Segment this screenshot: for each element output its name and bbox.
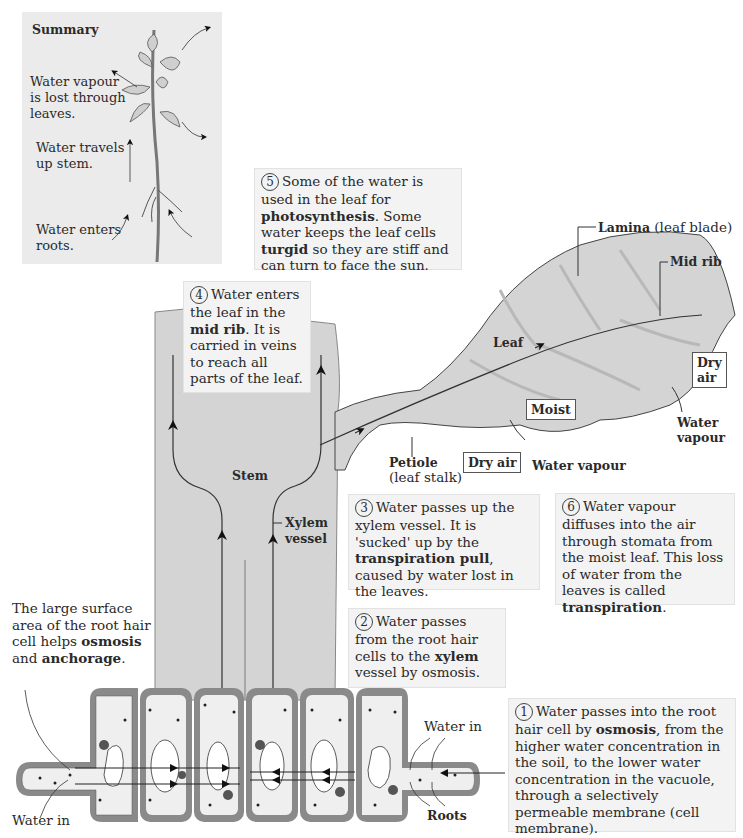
- moist-tag: Moist: [526, 399, 576, 420]
- root-cells: [16, 688, 505, 822]
- dry-air-bottom-tag: Dry air: [463, 452, 521, 473]
- stem-label: Stem: [232, 468, 268, 484]
- step-2-box: 2Water passes from the root hair cells t…: [348, 608, 506, 688]
- water-vapour-bottom-label: Water vapour: [532, 458, 626, 474]
- water-in-right-label: Water in: [424, 718, 482, 734]
- lamina-label: Lamina (leaf blade): [598, 219, 732, 236]
- step-1-box: 1Water passes into the root hair cell by…: [508, 698, 736, 832]
- step-number-badge: 2: [355, 613, 373, 631]
- mid-rib-label: Mid rib: [670, 254, 722, 270]
- water-in-left-label: Water in: [12, 812, 70, 828]
- step-6-box: 6Water vapour diffuses into the air thro…: [555, 493, 735, 605]
- step-number-badge: 5: [261, 173, 279, 191]
- roots-label: Roots: [427, 808, 467, 824]
- dry-air-right-tag: Dryair: [692, 352, 727, 388]
- root-hair-note: The large surface area of the root hair …: [12, 600, 162, 666]
- petiole-label: Petiole(leaf stalk): [389, 455, 462, 485]
- water-vapour-right-label: Watervapour: [677, 415, 725, 445]
- step-number-badge: 4: [190, 286, 208, 304]
- step-3-box: 3Water passes up the xylem vessel. It is…: [348, 494, 540, 590]
- step-number-badge: 3: [355, 499, 373, 517]
- step-number-badge: 6: [562, 498, 580, 516]
- summary-panel: Summary Water vapouris lost throughleave…: [22, 12, 222, 264]
- step-4-box: 4Water enters the leaf in the mid rib. I…: [183, 281, 311, 393]
- step-number-badge: 1: [515, 703, 533, 721]
- step-5-box: 5Some of the water is used in the leaf f…: [254, 168, 462, 270]
- summary-plant-illustration: [22, 12, 222, 264]
- leaf-label: Leaf: [493, 335, 523, 351]
- xylem-vessel-label: Xylemvessel: [285, 515, 328, 547]
